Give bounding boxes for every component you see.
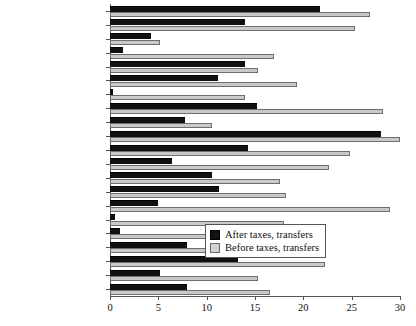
bar-group: Sweden xyxy=(110,46,400,60)
x-axis-tick xyxy=(400,296,401,300)
bar-after-taxes xyxy=(110,117,185,123)
bar-group: Norway xyxy=(110,87,400,101)
bar-before-taxes xyxy=(110,290,270,295)
x-axis-tick xyxy=(207,296,208,300)
bar-after-taxes xyxy=(110,47,123,53)
bar-group: Portugal xyxy=(110,60,400,74)
bar-after-taxes xyxy=(110,186,219,192)
bar-group: US xyxy=(110,4,400,18)
bar-group: UK xyxy=(110,18,400,32)
x-axis-tick-label: 10 xyxy=(201,302,212,313)
x-axis-tick xyxy=(110,296,111,300)
bar-after-taxes xyxy=(110,103,257,109)
bar-before-taxes xyxy=(110,109,383,114)
x-axis-tick-label: 15 xyxy=(250,302,261,313)
bar-group: Greece xyxy=(110,171,400,185)
bar-before-taxes xyxy=(110,151,350,156)
bar-group: Mexico xyxy=(110,129,400,143)
bar-after-taxes xyxy=(110,89,113,95)
bar-after-taxes xyxy=(110,242,187,248)
bar-chart: USUKSwitzerlandSwedenPortugalPolandNorwa… xyxy=(0,0,416,326)
bar-after-taxes xyxy=(110,19,245,25)
x-axis-tick xyxy=(303,296,304,300)
bar-after-taxes xyxy=(110,158,172,164)
bar-before-taxes xyxy=(110,54,274,59)
bar-after-taxes xyxy=(110,228,120,234)
x-axis-tick xyxy=(255,296,256,300)
bar-group: New Zealand xyxy=(110,101,400,115)
bar-before-taxes xyxy=(110,26,355,31)
x-axis-tick-label: 0 xyxy=(107,302,112,313)
bar-group: Belgium xyxy=(110,268,400,282)
legend-label-before: Before taxes, transfers xyxy=(225,242,319,253)
legend-label-after: After taxes, transfers xyxy=(225,229,313,240)
bar-before-taxes xyxy=(110,262,325,267)
bar-before-taxes xyxy=(110,68,258,73)
bar-after-taxes xyxy=(110,284,187,290)
x-axis-tick-label: 20 xyxy=(298,302,309,313)
x-axis-tick-label: 30 xyxy=(395,302,406,313)
bar-after-taxes xyxy=(110,270,160,276)
bar-before-taxes xyxy=(110,40,160,45)
bar-group: Netherlands xyxy=(110,115,400,129)
bar-after-taxes xyxy=(110,172,212,178)
bar-after-taxes xyxy=(110,214,115,220)
legend-item-before: Before taxes, transfers xyxy=(210,241,319,254)
chart-legend: After taxes, transfers Before taxes, tra… xyxy=(205,224,326,258)
bar-after-taxes xyxy=(110,6,320,12)
bar-group: Germany xyxy=(110,185,400,199)
bar-after-taxes xyxy=(110,61,245,67)
x-axis-tick xyxy=(158,296,159,300)
x-axis-tick-label: 5 xyxy=(156,302,161,313)
legend-item-after: After taxes, transfers xyxy=(210,228,319,241)
bar-group: Austria xyxy=(110,282,400,296)
bar-before-taxes xyxy=(110,179,280,184)
bar-after-taxes xyxy=(110,75,218,81)
legend-swatch-before-icon xyxy=(210,243,220,253)
bar-group: Poland xyxy=(110,74,400,88)
bar-before-taxes xyxy=(110,123,212,128)
bar-group: Hungary xyxy=(110,157,400,171)
x-axis-tick xyxy=(352,296,353,300)
bar-before-taxes xyxy=(110,207,390,212)
bar-before-taxes xyxy=(110,193,286,198)
bar-before-taxes xyxy=(110,276,258,281)
bar-group: France xyxy=(110,199,400,213)
bar-before-taxes xyxy=(110,82,297,87)
bar-before-taxes xyxy=(110,165,329,170)
bar-group: Switzerland xyxy=(110,32,400,46)
bar-group: Ireland xyxy=(110,143,400,157)
legend-swatch-after-icon xyxy=(210,230,220,240)
bar-before-taxes xyxy=(110,12,370,17)
x-axis-tick-label: 25 xyxy=(346,302,357,313)
bar-before-taxes xyxy=(110,137,400,142)
bar-after-taxes xyxy=(110,145,248,151)
bar-after-taxes xyxy=(110,33,151,39)
bar-before-taxes xyxy=(110,95,245,100)
bar-after-taxes xyxy=(110,131,381,137)
bar-after-taxes xyxy=(110,200,158,206)
